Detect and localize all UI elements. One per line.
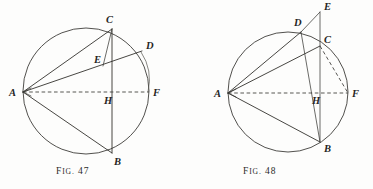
fig47-label-D: D [145,40,154,51]
figure-plate: A B C D E F H A B C D E F H FIG. 47 FIG.… [0,0,373,189]
fig47-label-F: F [152,87,160,98]
fig48-label-H: H [311,95,321,106]
fig48-caption-number: 48 [265,166,276,176]
fig48-label-A: A [213,88,221,99]
fig48-label-F: F [351,88,359,99]
fig48-caption-ig: IG. [249,167,262,176]
fig47-caption-number: 47 [78,166,89,176]
fig48-segment-A-D [228,32,301,93]
fig48-segment-D-B [301,32,320,142]
fig47-segment-A-B [23,92,112,153]
fig48-label-B: B [323,143,331,154]
fig48-segment-D-E [301,12,320,32]
figure-47-drawing: A B C D E F H [0,0,186,189]
fig47-caption-ig: IG. [62,167,75,176]
fig47-label-H: H [103,95,113,106]
fig48-label-D: D [293,17,302,28]
fig47-arc-mark-D-F [141,52,149,92]
fig47-label-B: B [113,156,121,167]
figure-47-caption: FIG. 47 [56,166,89,176]
fig48-label-C: C [324,34,332,45]
fig47-label-A: A [8,87,16,98]
fig47-label-C: C [106,14,114,25]
fig48-segment-A-C [228,46,320,93]
figure-48-drawing: A B C D E F H [186,0,373,189]
figure-48-caption: FIG. 48 [243,166,276,176]
fig48-segment-A-B [228,93,320,142]
fig48-label-E: E [323,1,331,12]
fig48-circle [228,32,348,152]
fig47-label-E: E [93,54,101,65]
fig47-segment-A-D [23,51,142,92]
